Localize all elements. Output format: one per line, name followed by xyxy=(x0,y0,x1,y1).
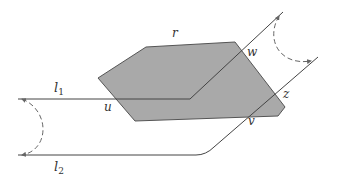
dashed-arc-right-identification xyxy=(274,16,311,62)
label-l2: l2 xyxy=(54,159,64,176)
label-l2-subscript: 2 xyxy=(58,166,64,176)
label-u: u xyxy=(104,100,112,114)
label-r: r xyxy=(172,26,179,40)
label-w: w xyxy=(247,45,258,59)
diagram-canvas: r w u z v l1 l2 xyxy=(0,0,338,185)
label-v: v xyxy=(248,114,255,128)
label-z: z xyxy=(282,87,290,101)
dashed-arc-left-identification xyxy=(22,99,43,155)
label-l1: l1 xyxy=(54,80,64,97)
label-l1-subscript: 1 xyxy=(58,87,64,97)
